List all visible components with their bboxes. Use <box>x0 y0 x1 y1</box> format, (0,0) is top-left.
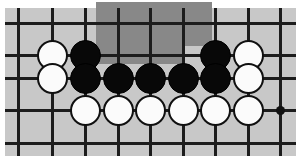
white-stone-r2c2[interactable] <box>37 63 68 94</box>
white-stone-r3c7[interactable] <box>200 95 231 126</box>
white-stone-r2c8[interactable] <box>233 63 264 94</box>
white-stone-r3c8[interactable] <box>233 95 264 126</box>
black-stone-r2c7[interactable] <box>200 63 231 94</box>
white-stone-r3c4[interactable] <box>103 95 134 126</box>
white-stone-r3c3[interactable] <box>70 95 101 126</box>
black-stone-r2c3[interactable] <box>70 63 101 94</box>
black-stone-r2c4[interactable] <box>103 63 134 94</box>
black-stone-r2c6[interactable] <box>168 63 199 94</box>
white-stone-r3c6[interactable] <box>168 95 199 126</box>
stone-layer <box>0 0 302 165</box>
go-diagram-screenshot <box>0 0 302 165</box>
white-stone-r3c5[interactable] <box>135 95 166 126</box>
black-stone-r2c5[interactable] <box>135 63 166 94</box>
